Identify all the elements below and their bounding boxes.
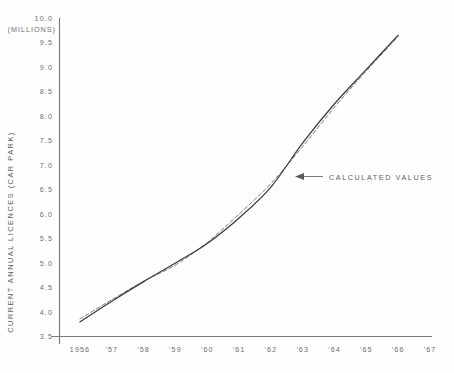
x-tick-label: '65 xyxy=(360,345,373,354)
y-tick-label: 10.0 xyxy=(35,14,53,23)
y-tick-label: 7.5 xyxy=(40,136,53,145)
x-tick-label: '62 xyxy=(265,345,278,354)
y-tick-label: 7.0 xyxy=(40,161,53,170)
y-tick-label: 8.5 xyxy=(40,87,53,96)
x-tick-label: '66 xyxy=(392,345,405,354)
y-tick-label: 6.5 xyxy=(40,185,53,194)
x-tick-label: '59 xyxy=(169,345,182,354)
y-tick-label: 4.0 xyxy=(40,308,53,317)
x-tick-label: '61 xyxy=(233,345,246,354)
line-chart: 10.09.59.08.58.07.57.06.56.05.55.04.54.0… xyxy=(0,0,454,373)
y-tick-label: 4.5 xyxy=(40,283,53,292)
y-tick-label: 3.5 xyxy=(40,332,53,341)
y-tick-label: 5.0 xyxy=(40,259,53,268)
x-tick-label: '64 xyxy=(328,345,341,354)
y-tick-label: 9.0 xyxy=(40,63,53,72)
x-tick-label: '67 xyxy=(424,345,437,354)
y-axis-title: CURRENT ANNUAL LICENCES (CAR PARK) xyxy=(6,131,15,333)
x-tick-label: '57 xyxy=(105,345,118,354)
annotation-arrow-icon xyxy=(295,173,304,180)
x-tick-label: '60 xyxy=(201,345,214,354)
y-tick-label: 8.0 xyxy=(40,112,53,121)
chart-figure: 10.09.59.08.58.07.57.06.56.05.55.04.54.0… xyxy=(0,0,454,373)
y-axis-units-label: (MILLIONS) xyxy=(8,25,56,34)
x-axis-tick-labels: 1956'57'58'59'60'61'62'63'64'65'66'67 xyxy=(70,345,437,354)
annotation-label: CALCULATED VALUES xyxy=(329,173,433,182)
calculated-values-annotation: CALCULATED VALUES xyxy=(295,173,433,182)
y-axis-tick-labels: 10.09.59.08.58.07.57.06.56.05.55.04.54.0… xyxy=(35,14,53,342)
x-tick-label: 1956 xyxy=(70,345,90,354)
y-tick-label: 5.5 xyxy=(40,234,53,243)
x-tick-label: '58 xyxy=(137,345,150,354)
y-tick-label: 6.0 xyxy=(40,210,53,219)
x-tick-label: '63 xyxy=(296,345,309,354)
y-tick-label: 9.5 xyxy=(40,38,53,47)
